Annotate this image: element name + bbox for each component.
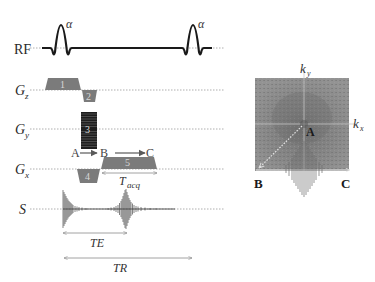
pulse-sequence-diagram: RF G z G y G x S α α 1 2 [0, 0, 375, 282]
svg-text:3: 3 [85, 124, 90, 135]
svg-text:TE: TE [90, 236, 105, 250]
svg-text:y: y [24, 130, 29, 140]
svg-text:G: G [15, 122, 25, 137]
kspace-point-a: A [306, 125, 315, 139]
svg-text:y: y [306, 69, 311, 78]
tr-dimension: TR [64, 258, 192, 275]
svg-text:2: 2 [86, 91, 91, 102]
gy-phase-encode-lobe-3: 3 [81, 112, 97, 149]
row-label-gy: G y [15, 122, 29, 140]
gz-lobe-1: 1 [45, 78, 81, 90]
te-dimension: TE [63, 233, 127, 250]
tacq-dimension: T acq [102, 173, 157, 190]
ky-label: k [300, 61, 306, 76]
rf-flip-angle-2: α [198, 17, 205, 31]
row-label-s: S [19, 202, 26, 217]
rf-flip-angle-1: α [66, 17, 73, 31]
row-label-gz: G z [15, 83, 29, 101]
svg-text:G: G [15, 83, 25, 98]
svg-text:x: x [359, 124, 364, 133]
kx-label: k [353, 116, 359, 131]
gx-lobe-4: 4 [77, 169, 100, 183]
kspace-point-b: B [254, 176, 263, 191]
kspace-panel: k y k x A [254, 61, 364, 197]
row-label-gx: G x [15, 162, 29, 180]
svg-text:1: 1 [60, 79, 65, 90]
gz-lobe-2: 2 [82, 90, 97, 102]
svg-text:TR: TR [113, 261, 128, 275]
kspace-point-c: C [341, 176, 350, 191]
gx-lobe-5: 5 [101, 157, 157, 169]
svg-text:G: G [15, 162, 25, 177]
svg-text:T: T [119, 174, 127, 188]
svg-text:acq: acq [127, 180, 140, 190]
svg-text:RF: RF [14, 42, 31, 57]
label-a: A [71, 146, 80, 160]
svg-text:S: S [19, 202, 26, 217]
svg-text:4: 4 [85, 171, 90, 182]
row-label-rf: RF [14, 42, 31, 57]
svg-text:x: x [24, 170, 29, 180]
svg-text:z: z [24, 91, 29, 101]
svg-text:5: 5 [125, 157, 130, 168]
signal-waveform [63, 189, 175, 229]
